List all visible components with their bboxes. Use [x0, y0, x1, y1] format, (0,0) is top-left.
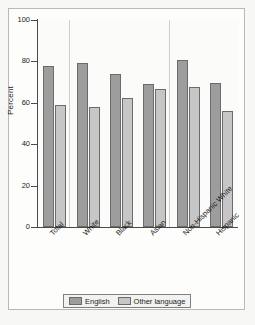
bar: [122, 98, 133, 227]
y-axis-tick-label: 60: [4, 99, 30, 107]
bar: [222, 111, 233, 227]
y-axis-tick-label: 20: [4, 182, 30, 190]
category-separator-line: [69, 20, 70, 227]
y-axis-tick-label: 0: [4, 223, 30, 231]
legend-label: Other language: [134, 297, 186, 306]
bar: [177, 60, 188, 227]
y-axis-tick-label: 100: [4, 16, 30, 24]
legend-swatch: [118, 297, 131, 305]
y-axis-tick-label-wrap: 80: [0, 57, 30, 65]
legend-label: English: [85, 297, 110, 306]
y-axis-tick-label-wrap: 20: [0, 182, 30, 190]
x-axis-spine: [37, 227, 238, 228]
y-axis-tick-label: 40: [4, 140, 30, 148]
bar: [155, 89, 166, 227]
bar: [189, 87, 200, 227]
chart-legend: EnglishOther language: [63, 294, 191, 308]
plot-area: [38, 20, 238, 227]
legend-swatch: [69, 297, 82, 305]
y-axis-tick-label-wrap: 40: [0, 140, 30, 148]
y-axis-tick-label: 80: [4, 57, 30, 65]
bar: [89, 107, 100, 227]
bar: [143, 84, 154, 227]
bar: [77, 63, 88, 227]
category-separator-line: [169, 20, 170, 227]
y-axis-tick-label-wrap: 60: [0, 99, 30, 107]
y-axis-tick-label-wrap: 0: [0, 223, 30, 231]
bar: [110, 74, 121, 227]
bar: [55, 105, 66, 227]
chart-figure: Percent 020406080100 TotalWhiteBlackAsia…: [0, 0, 255, 325]
y-axis-tick-label-wrap: 100: [0, 16, 30, 24]
legend-entry[interactable]: English: [69, 297, 110, 306]
legend-entry[interactable]: Other language: [118, 297, 186, 306]
bar: [43, 66, 54, 227]
